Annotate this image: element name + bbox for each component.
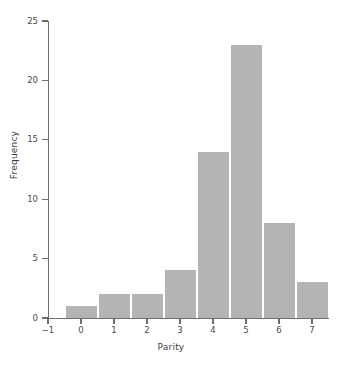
x-tick-mark — [278, 318, 279, 324]
y-tick-mark — [42, 80, 48, 81]
x-tick-label: −1 — [36, 326, 60, 335]
x-tick-mark — [47, 318, 48, 324]
x-tick-label: 5 — [234, 326, 258, 335]
histogram-figure: 0510152025 −101234567 Parity Frequency — [0, 0, 342, 365]
x-tick-label: 7 — [300, 326, 324, 335]
x-tick-mark — [146, 318, 147, 324]
histogram-bar — [98, 294, 131, 318]
x-tick-mark — [212, 318, 213, 324]
x-tick-mark — [80, 318, 81, 324]
x-tick-mark — [179, 318, 180, 324]
histogram-bar — [263, 223, 296, 318]
x-tick-mark — [113, 318, 114, 324]
y-tick-label: 10 — [0, 195, 38, 204]
x-tick-label: 0 — [69, 326, 93, 335]
histogram-bar — [296, 282, 329, 318]
x-tick-label: 4 — [201, 326, 225, 335]
x-tick-label: 1 — [102, 326, 126, 335]
y-axis-title: Frequency — [9, 95, 19, 215]
x-tick-mark — [245, 318, 246, 324]
y-tick-mark — [42, 139, 48, 140]
x-tick-label: 2 — [135, 326, 159, 335]
y-tick-label: 0 — [0, 314, 38, 323]
x-tick-label: 3 — [168, 326, 192, 335]
y-tick-mark — [42, 258, 48, 259]
x-tick-label: 6 — [267, 326, 291, 335]
histogram-bar — [65, 306, 98, 318]
histogram-bar — [230, 45, 263, 318]
y-tick-mark — [42, 20, 48, 21]
y-tick-label: 5 — [0, 254, 38, 263]
histogram-bar — [164, 270, 197, 318]
histogram-bar — [197, 152, 230, 318]
x-tick-mark — [311, 318, 312, 324]
y-tick-label: 20 — [0, 76, 38, 85]
x-axis-title: Parity — [0, 342, 342, 352]
y-tick-mark — [42, 199, 48, 200]
y-tick-label: 15 — [0, 135, 38, 144]
histogram-bar — [131, 294, 164, 318]
y-tick-label: 25 — [0, 17, 38, 26]
